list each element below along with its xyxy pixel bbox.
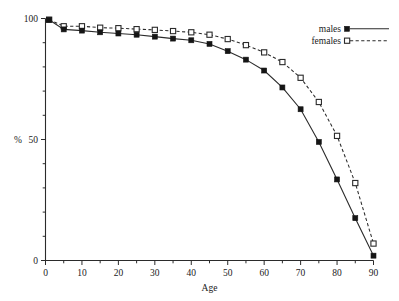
x-axis-tick-label: 90 xyxy=(369,268,379,278)
data-point-males xyxy=(189,38,194,43)
data-point-females xyxy=(170,28,175,33)
data-point-females xyxy=(243,43,248,48)
data-point-males xyxy=(79,28,84,33)
series-line-females xyxy=(49,20,373,244)
data-point-males xyxy=(116,31,121,36)
data-point-females xyxy=(207,32,212,37)
x-axis-title: Age xyxy=(202,283,218,293)
x-axis-tick-label: 80 xyxy=(332,268,342,278)
y-axis-title: % xyxy=(14,135,22,145)
data-point-males xyxy=(171,36,176,41)
legend-marker-females xyxy=(345,38,350,43)
data-point-females xyxy=(116,26,121,31)
x-axis-tick-label: 50 xyxy=(223,268,233,278)
y-axis-tick-label: 0 xyxy=(33,256,38,266)
x-axis-tick-label: 60 xyxy=(259,268,269,278)
x-axis-tick-label: 70 xyxy=(296,268,306,278)
data-point-females xyxy=(334,133,339,138)
x-axis-tick-label: 0 xyxy=(43,268,48,278)
data-point-females xyxy=(189,30,194,35)
series-line-males xyxy=(49,20,373,256)
data-point-males xyxy=(98,30,103,35)
chart-axes xyxy=(46,19,374,261)
legend-label-females: females xyxy=(311,36,341,46)
data-point-males xyxy=(152,34,157,39)
data-point-males xyxy=(353,216,358,221)
x-axis-tick-label: 10 xyxy=(77,268,87,278)
data-point-females xyxy=(316,99,321,104)
x-axis-tick-label: 30 xyxy=(150,268,160,278)
y-axis-tick-label: 50 xyxy=(29,135,39,145)
data-point-males xyxy=(262,68,267,73)
line-chart: 0501000102030405060708090Age%malesfemale… xyxy=(0,0,399,301)
data-point-females xyxy=(280,59,285,64)
y-axis-tick-label: 100 xyxy=(24,14,39,24)
data-point-females xyxy=(225,36,230,41)
chart-container: 0501000102030405060708090Age%malesfemale… xyxy=(0,0,399,301)
data-point-females xyxy=(371,241,376,246)
x-axis-tick-label: 40 xyxy=(187,268,197,278)
data-point-females xyxy=(152,27,157,32)
legend-label-males: males xyxy=(319,24,341,34)
data-point-males xyxy=(371,253,376,258)
data-point-males xyxy=(61,27,66,32)
legend-marker-males xyxy=(345,26,350,31)
data-point-males xyxy=(335,177,340,182)
data-point-males xyxy=(207,41,212,46)
data-point-males xyxy=(225,49,230,54)
x-axis-tick-label: 20 xyxy=(114,268,124,278)
data-point-females xyxy=(134,27,139,32)
data-point-females xyxy=(262,50,267,55)
data-point-males xyxy=(243,57,248,62)
data-point-females xyxy=(298,75,303,80)
data-point-males xyxy=(316,139,321,144)
data-point-males xyxy=(134,32,139,37)
data-point-females xyxy=(353,180,358,185)
data-point-males xyxy=(47,17,52,22)
data-point-males xyxy=(298,107,303,112)
data-point-males xyxy=(280,85,285,90)
